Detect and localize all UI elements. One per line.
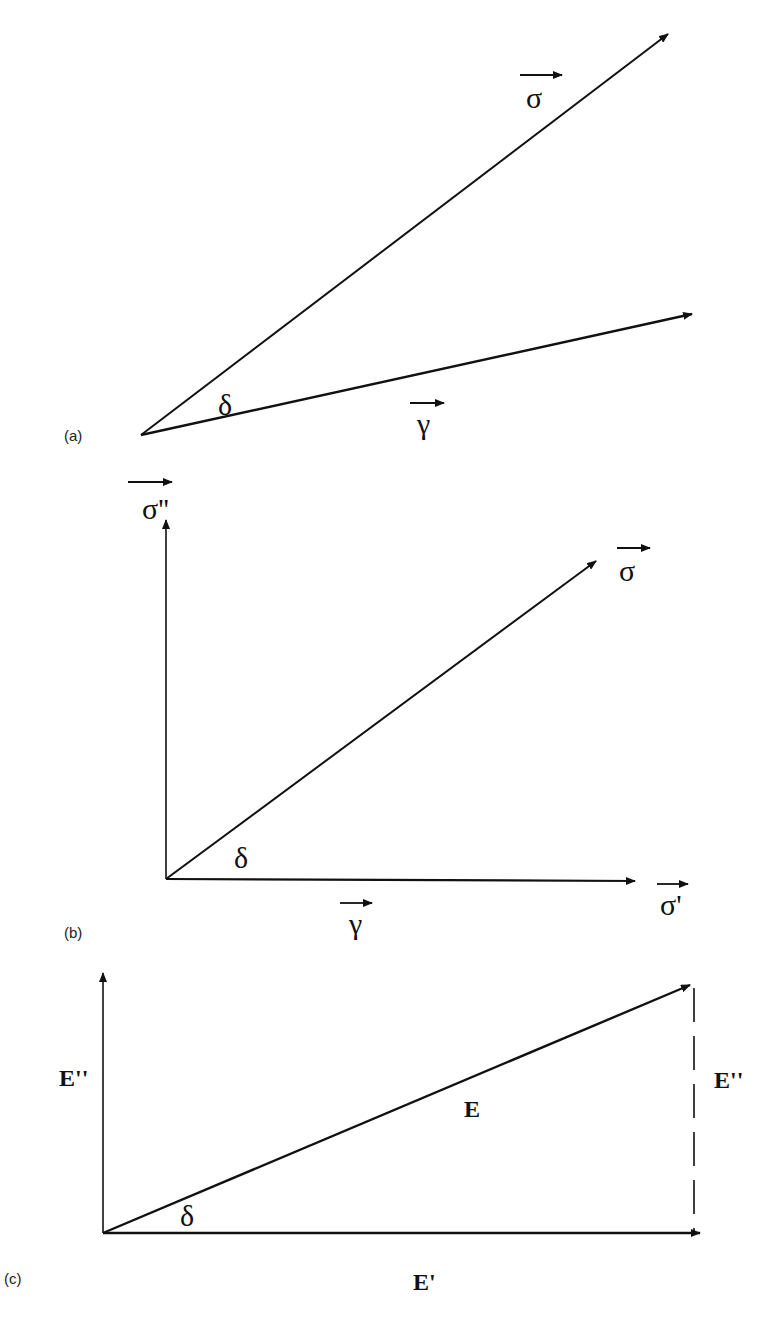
panel-b-label: (b) [64, 924, 82, 941]
sigma-double-prime-label: σ'' [142, 492, 169, 525]
stress-vector-arrow [141, 34, 668, 435]
phase-vector-diagram: (a) σ γ δ (b) σ'' σ σ' γ δ (c) [0, 0, 773, 1320]
y-axis-loss-modulus-label: E'' [59, 1065, 88, 1091]
panel-c: (c) E'' E E'' E' δ [4, 973, 743, 1295]
storage-stress-axis [166, 879, 635, 881]
panel-a-label: (a) [64, 427, 82, 444]
delta-angle-label: δ [180, 1199, 194, 1232]
panel-a: (a) σ γ δ [64, 34, 692, 444]
dashed-side-loss-modulus-label: E'' [714, 1067, 743, 1093]
panel-c-label: (c) [4, 1270, 22, 1287]
stress-vector-arrow [166, 561, 596, 879]
complex-modulus-arrow [103, 985, 690, 1233]
x-axis-storage-modulus-label: E' [413, 1269, 436, 1295]
sigma-label: σ [619, 554, 635, 587]
complex-modulus-label: E [464, 1096, 480, 1122]
sigma-label: σ [526, 81, 542, 114]
gamma-label: γ [416, 407, 430, 440]
delta-angle-label: δ [218, 388, 232, 421]
gamma-label: γ [348, 907, 362, 940]
sigma-prime-label: σ' [660, 888, 682, 921]
panel-b: (b) σ'' σ σ' γ δ [64, 482, 688, 941]
delta-angle-label: δ [234, 841, 248, 874]
